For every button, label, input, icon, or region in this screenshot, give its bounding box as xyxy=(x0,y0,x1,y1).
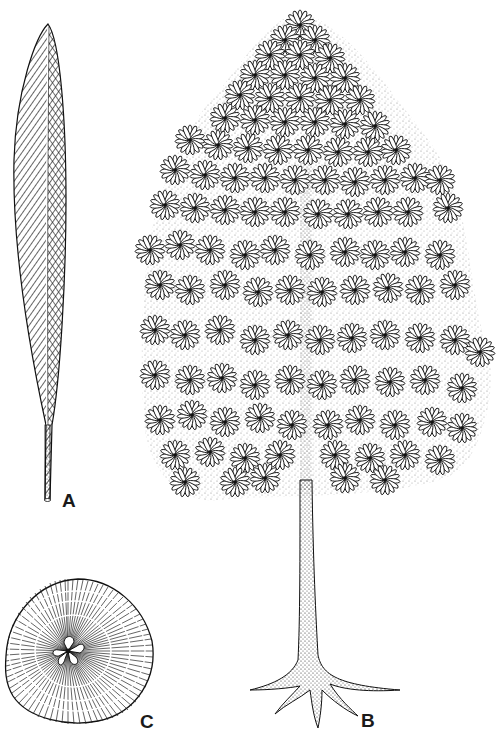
tree-drawing-b xyxy=(135,10,495,728)
panel-label-b: B xyxy=(361,711,375,730)
illustration-canvas xyxy=(0,0,496,743)
leaf-drawing-a xyxy=(14,24,66,502)
botanical-figure: A B C xyxy=(0,0,496,743)
cross-section-drawing-c xyxy=(6,579,154,724)
panel-label-c: C xyxy=(140,712,154,731)
panel-label-a: A xyxy=(62,491,76,510)
